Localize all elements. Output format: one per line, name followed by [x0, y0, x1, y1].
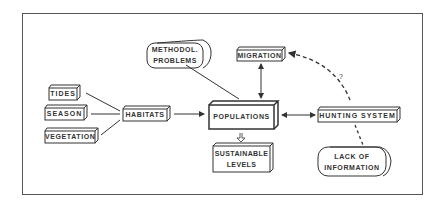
node-populations: POPULATIONS	[209, 111, 274, 122]
node-habitats: HABITATS	[123, 109, 167, 120]
hollow-down-arrow	[237, 133, 245, 142]
sustainable-line2: LEVELS	[213, 159, 270, 170]
node-methodol-problems: METHODOL. PROBLEMS	[147, 44, 203, 66]
lack-line1: LACK OF	[318, 151, 386, 162]
node-season: SEASON	[45, 108, 84, 119]
methodol-line1: METHODOL.	[147, 44, 203, 55]
lack-hunting-dashed	[355, 125, 363, 145]
diagram-connectors	[0, 0, 445, 207]
tides-habitats-line	[86, 93, 120, 111]
node-hunting-system: HUNTING SYSTEM	[318, 110, 397, 121]
node-vegetation: VEGETATION	[45, 131, 95, 142]
vegetation-habitats-line	[101, 120, 120, 135]
node-lack-of-information: LACK OF INFORMATION	[318, 151, 386, 173]
node-migration: MIGRATION	[237, 50, 282, 61]
lack-line2: INFORMATION	[318, 162, 386, 173]
node-tides: TIDES	[49, 88, 77, 99]
methodol-line2: PROBLEMS	[147, 55, 203, 66]
sustainable-line1: SUSTAINABLE	[213, 148, 270, 159]
question-mark-label: ?	[339, 73, 343, 80]
node-sustainable-levels: SUSTAINABLE LEVELS	[213, 148, 270, 170]
methodol-populations-line	[186, 65, 239, 99]
